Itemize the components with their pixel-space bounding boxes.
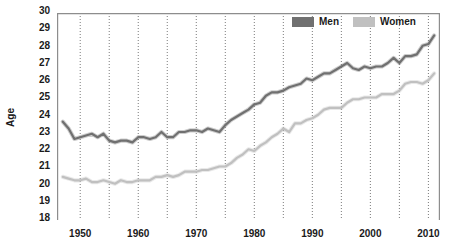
- legend-entry-women[interactable]: Women: [353, 16, 416, 27]
- y-tick-label: 29: [20, 23, 50, 33]
- x-tick-label: 1970: [185, 228, 207, 239]
- y-axis-title: Age: [5, 98, 16, 138]
- y-tick-label: 20: [20, 179, 50, 189]
- x-tick-label: 1960: [127, 228, 149, 239]
- y-tick-label: 26: [20, 75, 50, 85]
- y-tick-label: 28: [20, 41, 50, 51]
- series-line-men: [63, 35, 434, 142]
- y-axis-tick-labels: 18192021222324252627282930: [20, 7, 50, 227]
- legend-swatch-icon: [353, 17, 375, 27]
- legend-label: Women: [380, 16, 416, 27]
- chart-container: Age 18192021222324252627282930 195019601…: [0, 0, 451, 250]
- x-tick-label: 1980: [243, 228, 265, 239]
- legend-label: Men: [319, 16, 339, 27]
- y-tick-label: 19: [20, 196, 50, 206]
- x-axis-tick-labels: 1950196019701980199020002010: [0, 228, 451, 246]
- y-tick-label: 18: [20, 213, 50, 223]
- legend-entry-men[interactable]: Men: [292, 16, 339, 27]
- y-tick-label: 22: [20, 144, 50, 154]
- y-tick-label: 24: [20, 110, 50, 120]
- series-line-women: [63, 73, 434, 183]
- y-tick-label: 21: [20, 161, 50, 171]
- vertical-gridlines: [80, 13, 428, 220]
- series-line-halo-women: [63, 73, 434, 183]
- plot-area: [57, 13, 440, 220]
- axis-lines: [57, 13, 440, 220]
- x-tick-label: 1950: [69, 228, 91, 239]
- chart-legend: MenWomen: [292, 16, 424, 27]
- y-tick-label: 30: [20, 6, 50, 16]
- y-tick-label: 23: [20, 127, 50, 137]
- legend-swatch-icon: [292, 17, 314, 27]
- chart-plot-svg: [57, 13, 440, 220]
- y-tick-label: 25: [20, 92, 50, 102]
- data-series-lines: [63, 35, 434, 183]
- y-tick-label: 27: [20, 58, 50, 68]
- x-tick-label: 2000: [359, 228, 381, 239]
- x-tick-label: 1990: [301, 228, 323, 239]
- x-tick-label: 2010: [417, 228, 439, 239]
- series-line-halo-men: [63, 35, 434, 142]
